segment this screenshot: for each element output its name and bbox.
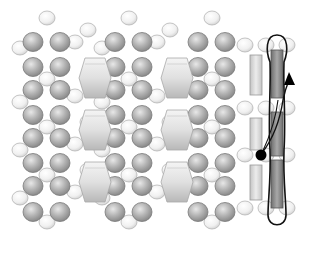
- light-atom: [12, 143, 28, 157]
- dark-atom: [50, 203, 70, 222]
- dark-atom: [50, 177, 70, 196]
- dark-rod: [271, 160, 283, 208]
- dark-atom: [132, 203, 152, 222]
- dark-atom: [132, 154, 152, 173]
- rods-layer: [250, 50, 283, 208]
- light-atom: [237, 201, 253, 215]
- light-atom: [121, 11, 137, 25]
- dark-atom: [23, 58, 43, 77]
- dark-atom: [215, 33, 235, 52]
- dark-atom: [105, 203, 125, 222]
- dark-atom: [188, 33, 208, 52]
- dark-atom: [50, 81, 70, 100]
- dark-atom: [215, 81, 235, 100]
- arrow-head-icon: [284, 72, 295, 85]
- dark-atom: [105, 154, 125, 173]
- dark-atom: [215, 106, 235, 125]
- diagram-canvas: [0, 0, 309, 259]
- start-dot: [256, 150, 267, 161]
- dark-atom: [23, 177, 43, 196]
- dark-atom: [215, 154, 235, 173]
- dark-atom: [23, 33, 43, 52]
- dark-atom: [215, 177, 235, 196]
- dark-atom: [50, 106, 70, 125]
- dark-atom: [23, 129, 43, 148]
- dark-atom: [105, 33, 125, 52]
- dark-atom: [50, 58, 70, 77]
- light-atom: [162, 23, 178, 37]
- light-atom: [204, 11, 220, 25]
- dark-atom: [132, 33, 152, 52]
- dark-atom: [23, 106, 43, 125]
- light-atom: [237, 38, 253, 52]
- light-rod: [250, 118, 262, 150]
- dark-atom: [132, 58, 152, 77]
- dark-atom: [50, 129, 70, 148]
- dark-rod: [271, 50, 283, 98]
- light-atom: [80, 23, 96, 37]
- light-atom: [12, 191, 28, 205]
- dark-atom: [188, 154, 208, 173]
- dark-atom: [50, 154, 70, 173]
- dark-atom: [50, 33, 70, 52]
- dark-atom: [188, 106, 208, 125]
- dark-atom: [23, 203, 43, 222]
- crystal-structure-diagram: [0, 0, 309, 259]
- dark-atom: [132, 106, 152, 125]
- dark-atom: [215, 58, 235, 77]
- light-atom: [12, 95, 28, 109]
- dark-atom: [132, 129, 152, 148]
- light-atom: [237, 101, 253, 115]
- dark-atom: [23, 81, 43, 100]
- dark-atom: [188, 203, 208, 222]
- light-atom: [39, 11, 55, 25]
- dark-atom: [132, 81, 152, 100]
- light-rod: [250, 165, 262, 200]
- dark-atom: [215, 129, 235, 148]
- light-rod: [250, 55, 262, 95]
- dark-atom: [132, 177, 152, 196]
- dark-atom: [23, 154, 43, 173]
- dark-atom: [215, 203, 235, 222]
